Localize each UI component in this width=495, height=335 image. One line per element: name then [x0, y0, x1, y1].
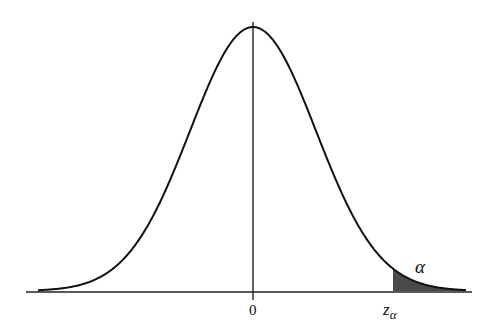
diagram-canvas	[0, 0, 495, 335]
center-label: 0	[249, 302, 257, 319]
critical-value-base: z	[383, 300, 390, 319]
density-curve	[38, 27, 466, 290]
tail-area-label: α	[415, 256, 425, 278]
shaded-tail-area	[393, 269, 466, 291]
critical-value-label: zα	[383, 300, 396, 323]
normal-distribution-diagram: 0 zα α	[0, 0, 495, 335]
critical-value-subscript: α	[390, 307, 397, 322]
